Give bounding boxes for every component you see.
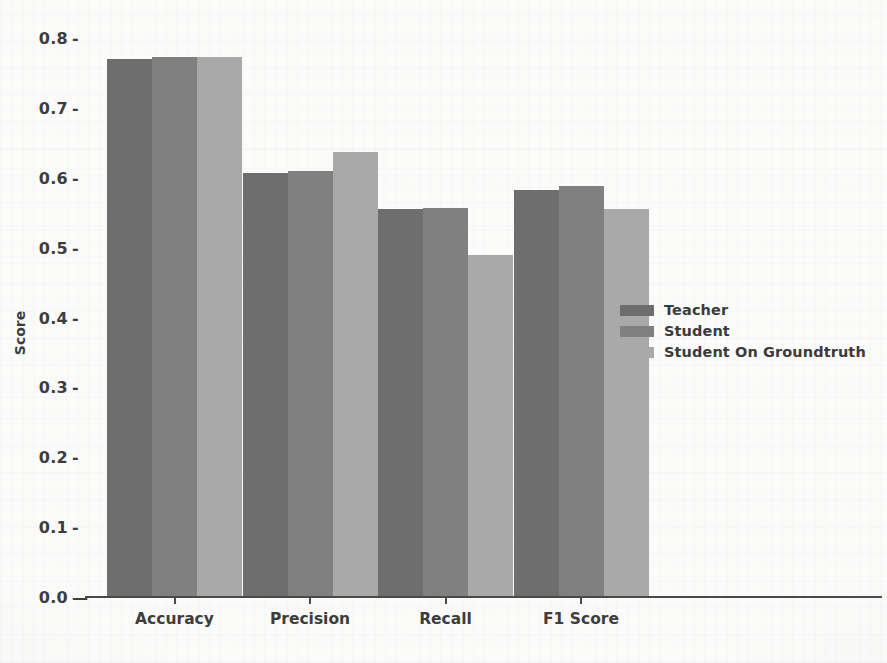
- x-tick-mark: [580, 597, 582, 604]
- chart-legend: TeacherStudentStudent On Groundtruth: [620, 300, 866, 363]
- y-tick-mark: -: [72, 238, 79, 257]
- bar-f1-score-student: [559, 186, 604, 597]
- bar-accuracy-student: [152, 57, 197, 597]
- legend-item-student: Student: [620, 321, 866, 341]
- bar-precision-student-on-groundtruth: [333, 152, 378, 597]
- x-tick-label-accuracy: Accuracy: [135, 610, 214, 628]
- bar-precision-teacher: [243, 173, 288, 597]
- legend-label: Student: [664, 323, 730, 339]
- legend-label: Student On Groundtruth: [664, 344, 866, 360]
- legend-swatch-icon: [620, 326, 654, 337]
- y-tick-mark: -: [72, 168, 79, 187]
- legend-label: Teacher: [664, 302, 728, 318]
- bar-recall-teacher: [378, 209, 423, 598]
- legend-item-teacher: Teacher: [620, 300, 866, 320]
- y-tick-label: 0.0: [18, 588, 68, 607]
- bar-accuracy-teacher: [107, 59, 152, 597]
- y-tick-label: 0.6: [18, 168, 68, 187]
- y-tick-mark: -: [72, 448, 79, 467]
- chart-page: Score 0.0—0.1-0.2-0.3-0.4-0.5-0.6-0.7-0.…: [0, 0, 887, 663]
- y-tick-label: 0.3: [18, 378, 68, 397]
- legend-swatch-icon: [620, 347, 654, 358]
- x-tick-label-f1-score: F1 Score: [543, 610, 619, 628]
- x-tick-mark: [309, 597, 311, 604]
- x-tick-label-recall: Recall: [419, 610, 472, 628]
- bar-f1-score-student-on-groundtruth: [604, 209, 649, 598]
- x-tick-mark: [174, 597, 176, 604]
- x-tick-mark: [445, 597, 447, 604]
- y-tick-label: 0.1: [18, 518, 68, 537]
- y-tick-label: 0.7: [18, 98, 68, 117]
- bar-recall-student-on-groundtruth: [468, 255, 513, 597]
- y-tick-label: 0.5: [18, 238, 68, 257]
- y-tick-mark: -: [72, 378, 79, 397]
- bar-recall-student: [423, 208, 468, 597]
- bar-f1-score-teacher: [514, 190, 559, 597]
- y-tick-mark: -: [72, 29, 79, 48]
- y-tick-mark: -: [72, 308, 79, 327]
- legend-item-student-on-groundtruth: Student On Groundtruth: [620, 342, 866, 362]
- y-tick-label: 0.2: [18, 448, 68, 467]
- bar-accuracy-student-on-groundtruth: [197, 57, 242, 597]
- y-tick-mark: -: [72, 98, 79, 117]
- y-tick-label: 0.8: [18, 29, 68, 48]
- bar-precision-student: [288, 171, 333, 597]
- x-axis-line: [85, 596, 882, 598]
- legend-swatch-icon: [620, 305, 654, 316]
- y-tick-label: 0.4: [18, 308, 68, 327]
- y-tick-mark: -: [72, 518, 79, 537]
- x-tick-label-precision: Precision: [270, 610, 350, 628]
